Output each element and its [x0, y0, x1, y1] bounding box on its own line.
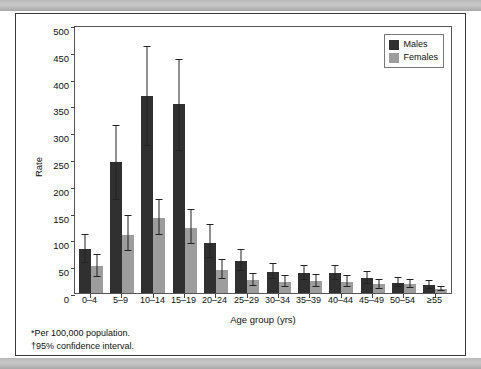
y-tick-label: 450 [53, 54, 75, 64]
y-tick-label: 500 [53, 27, 75, 37]
x-tick-label: 35–39 [296, 296, 321, 305]
bar-group [263, 27, 294, 293]
y-tick-label: 50 [58, 268, 75, 278]
bar-group [200, 27, 231, 293]
legend-swatch-icon [389, 40, 399, 50]
error-bar [409, 279, 410, 289]
y-tick-label: 0 [64, 295, 75, 305]
error-bar [284, 275, 285, 287]
bar-females [341, 282, 353, 293]
error-bar [96, 254, 97, 277]
y-tick-label: 400 [53, 80, 75, 90]
bar-males [110, 162, 122, 293]
error-bar [221, 259, 222, 279]
x-tick-label: 5–9 [113, 296, 128, 305]
x-tick-label: 20–24 [202, 296, 227, 305]
bar-females [310, 281, 322, 293]
y-tick-label: 200 [53, 188, 75, 198]
x-tick-label: 50–54 [390, 296, 415, 305]
error-bar [397, 277, 398, 287]
error-bar [272, 263, 273, 279]
bar-females [216, 270, 228, 293]
y-tick-label: 250 [53, 161, 75, 171]
bar-group [326, 27, 357, 293]
footnote-line: *Per 100,000 population. [31, 327, 134, 340]
error-bar [115, 125, 116, 200]
bar-group [232, 27, 263, 293]
bar-group [106, 27, 137, 293]
y-tick-label: 100 [53, 241, 75, 251]
bar-males [267, 272, 279, 293]
bar-males [141, 96, 153, 293]
x-tick-label: 25–29 [234, 296, 259, 305]
top-gray-band [0, 0, 481, 11]
figure-panel: 050100150200250300350400450500 Rate 0–45… [15, 13, 466, 356]
error-bar [178, 59, 179, 151]
error-bar [303, 265, 304, 281]
x-tick-label: 45–49 [359, 296, 384, 305]
x-tick-label: 15–19 [171, 296, 196, 305]
bar-females [279, 282, 291, 293]
error-bar [209, 224, 210, 258]
error-bar [429, 280, 430, 289]
error-bar [366, 271, 367, 284]
error-bar [127, 215, 128, 250]
error-bar [241, 249, 242, 271]
x-tick-label: 40–44 [328, 296, 353, 305]
bottom-gray-band [0, 358, 481, 369]
legend-label: Males [403, 40, 427, 49]
legend-swatch-icon [389, 53, 399, 63]
error-bar [147, 46, 148, 146]
figure-root: 050100150200250300350400450500 Rate 0–45… [0, 0, 481, 369]
error-bar [347, 275, 348, 287]
x-tick-label: 30–34 [265, 296, 290, 305]
bar-females [404, 284, 416, 293]
bar-males [173, 104, 185, 293]
x-tick-label: ≥55 [427, 296, 442, 305]
bar-males [298, 273, 310, 293]
bar-group [75, 27, 106, 293]
error-bar [84, 234, 85, 263]
error-bar [315, 274, 316, 286]
y-tick-label: 350 [53, 107, 75, 117]
x-tick-label: 0–4 [82, 296, 97, 305]
bar-females [185, 228, 197, 293]
y-axis-title: Rate [33, 156, 44, 176]
y-tick-label: 300 [53, 134, 75, 144]
chart-legend: MalesFemales [384, 34, 444, 68]
bar-females [373, 284, 385, 293]
bar-males [79, 249, 91, 293]
error-bar [253, 273, 254, 286]
bar-males [204, 243, 216, 293]
bar-females [122, 235, 134, 293]
error-bar [335, 265, 336, 281]
bar-females [247, 280, 259, 293]
footnotes: *Per 100,000 population.†95% confidence … [31, 327, 134, 353]
legend-label: Females [403, 53, 438, 62]
bar-group [169, 27, 200, 293]
legend-item-males: Males [389, 38, 438, 51]
bar-females [435, 289, 447, 293]
error-bar [159, 199, 160, 235]
x-tick-label: 10–14 [140, 296, 165, 305]
bar-males [235, 261, 247, 293]
bar-males [392, 283, 404, 293]
error-bar [378, 279, 379, 289]
bar-group [138, 27, 169, 293]
bar-males [361, 278, 373, 293]
bar-females [153, 218, 165, 293]
footnote-line: †95% confidence interval. [31, 340, 134, 353]
bar-males [329, 273, 341, 293]
legend-item-females: Females [389, 51, 438, 64]
plot-wrapper: 050100150200250300350400450500 Rate 0–45… [74, 26, 452, 307]
bar-group [294, 27, 325, 293]
y-tick-label: 150 [53, 214, 75, 224]
error-bar [190, 209, 191, 243]
bar-males [423, 285, 435, 293]
x-axis-title: Age group (yrs) [74, 314, 452, 325]
error-bar [441, 286, 442, 292]
bar-females [91, 266, 103, 293]
